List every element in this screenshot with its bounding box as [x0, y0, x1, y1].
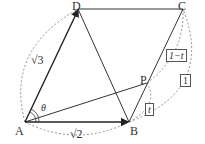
length-label-sqrt2: √2 — [70, 128, 83, 140]
parallelogram-diagram — [0, 0, 205, 144]
arc-sqrt3 — [21, 9, 78, 122]
point-label-C: C — [178, 0, 186, 12]
point-label-B: B — [130, 125, 138, 137]
point-label-P: P — [140, 74, 147, 86]
side-BC — [129, 9, 183, 122]
point-label-A: A — [15, 125, 24, 137]
point-label-D: D — [72, 0, 81, 12]
angle-label-theta: θ — [41, 103, 46, 113]
length-box-one-minus-t: 1−t — [166, 49, 187, 62]
length-label-sqrt3: √3 — [31, 54, 44, 66]
diagonal-DB — [78, 9, 129, 122]
length-box-t: t — [145, 103, 154, 116]
length-box-one: 1 — [180, 74, 191, 87]
